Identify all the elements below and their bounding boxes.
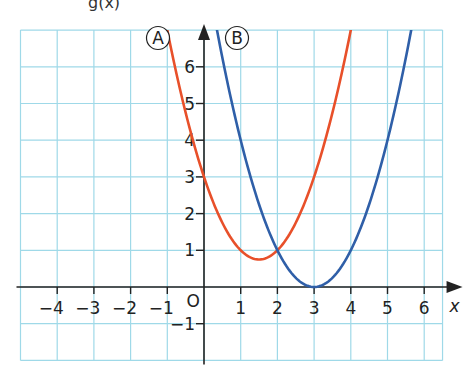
y-tick-label: −1 <box>170 314 195 334</box>
curve-label-a: A <box>152 28 164 48</box>
header-fragment: g(x) <box>88 0 120 12</box>
x-tick-label: 2 <box>272 298 283 318</box>
x-tick-label: −4 <box>39 298 64 318</box>
x-tick-label: 3 <box>309 298 320 318</box>
x-tick-label: 5 <box>382 298 393 318</box>
y-tick-label: 3 <box>184 167 195 187</box>
x-tick-label: −3 <box>75 298 100 318</box>
origin-label: O <box>187 291 200 311</box>
x-tick-label: 6 <box>419 298 430 318</box>
x-axis-label: x <box>449 296 461 316</box>
x-tick-label: 4 <box>345 298 356 318</box>
y-tick-label: 6 <box>184 57 195 77</box>
x-axis-arrow-icon <box>447 281 463 293</box>
x-tick-label: −2 <box>112 298 137 318</box>
curve-label-b: B <box>231 28 243 48</box>
y-tick-label: 1 <box>184 240 195 260</box>
parabola-chart: g(x)−4−3−2−1123456−1123456OxAB <box>0 0 470 370</box>
y-axis-arrow-icon <box>198 24 210 40</box>
x-tick-label: 1 <box>235 298 246 318</box>
y-tick-label: 2 <box>184 204 195 224</box>
